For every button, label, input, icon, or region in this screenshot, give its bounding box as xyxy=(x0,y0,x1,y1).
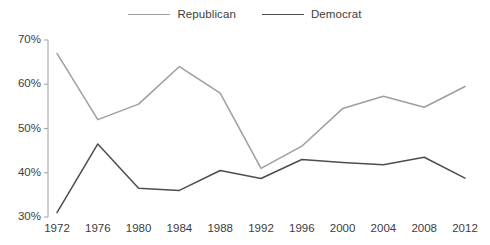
y-tick-label: 70% xyxy=(18,33,41,45)
x-tick-label: 2008 xyxy=(411,222,437,234)
y-tick-label: 50% xyxy=(18,122,41,134)
data-series-group xyxy=(57,53,465,212)
y-axis-ticks: 30%40%50%60%70% xyxy=(18,33,48,222)
x-tick-label: 1976 xyxy=(85,222,111,234)
series-line-republican xyxy=(57,53,465,168)
series-line-democrat xyxy=(57,144,465,213)
y-tick-label: 60% xyxy=(18,77,41,89)
x-tick-label: 2004 xyxy=(371,222,397,234)
x-tick-label: 1972 xyxy=(44,222,70,234)
x-tick-label: 1984 xyxy=(167,222,193,234)
x-tick-label: 2012 xyxy=(452,222,478,234)
y-tick-label: 30% xyxy=(18,210,41,222)
y-tick-label: 40% xyxy=(18,166,41,178)
x-tick-label: 2000 xyxy=(330,222,356,234)
x-tick-label: 1992 xyxy=(248,222,274,234)
x-tick-label: 1988 xyxy=(207,222,233,234)
x-axis-ticks: 1972197619801984198819921996200020042008… xyxy=(44,222,478,234)
x-tick-label: 1980 xyxy=(126,222,152,234)
plot-area: 30%40%50%60%70% 197219761980198419881992… xyxy=(0,0,490,245)
line-chart: Republican Democrat 30%40%50%60%70% 1972… xyxy=(0,0,490,245)
x-tick-label: 1996 xyxy=(289,222,315,234)
